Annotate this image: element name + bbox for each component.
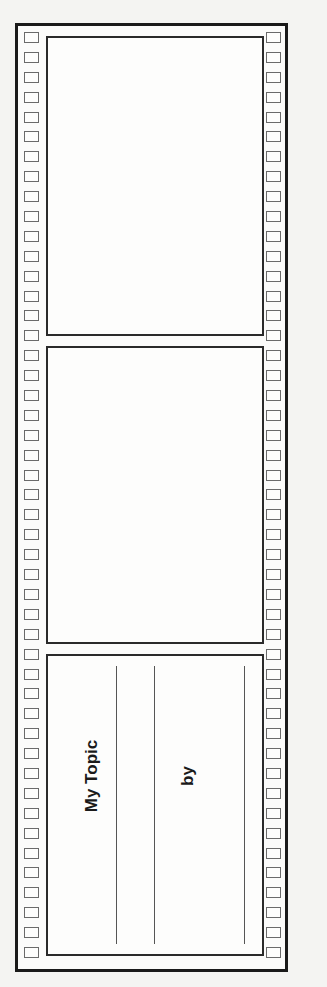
sprocket-hole: [266, 470, 281, 481]
sprocket-hole: [24, 927, 39, 938]
sprocket-hole: [266, 131, 281, 142]
sprocket-hole: [24, 509, 39, 520]
sprocket-hole: [24, 171, 39, 182]
sprocket-hole: [266, 410, 281, 421]
sprocket-hole: [266, 808, 281, 819]
filmstrip-border: My Topic by: [15, 23, 288, 972]
sprocket-hole: [266, 450, 281, 461]
sprocket-holes-left: [24, 32, 40, 967]
sprocket-hole: [266, 927, 281, 938]
sprocket-hole: [24, 92, 39, 103]
writing-line-3: [244, 666, 245, 944]
sprocket-holes-right: [266, 32, 282, 967]
sprocket-hole: [266, 569, 281, 580]
sprocket-hole: [24, 748, 39, 759]
sprocket-hole: [24, 470, 39, 481]
sprocket-hole: [24, 291, 39, 302]
sprocket-hole: [266, 112, 281, 123]
sprocket-hole: [24, 251, 39, 262]
sprocket-hole: [266, 688, 281, 699]
sprocket-hole: [24, 112, 39, 123]
sprocket-hole: [24, 489, 39, 500]
sprocket-hole: [266, 151, 281, 162]
sprocket-hole: [24, 569, 39, 580]
sprocket-hole: [24, 887, 39, 898]
sprocket-hole: [266, 32, 281, 43]
byline-label: by: [178, 756, 198, 796]
sprocket-hole: [24, 330, 39, 341]
sprocket-hole: [24, 549, 39, 560]
sprocket-hole: [266, 72, 281, 83]
sprocket-hole: [24, 310, 39, 321]
sprocket-hole: [266, 251, 281, 262]
sprocket-hole: [266, 529, 281, 540]
sprocket-hole: [266, 649, 281, 660]
sprocket-hole: [266, 728, 281, 739]
sprocket-hole: [24, 867, 39, 878]
sprocket-hole: [266, 549, 281, 560]
sprocket-hole: [266, 171, 281, 182]
sprocket-hole: [266, 669, 281, 680]
sprocket-hole: [24, 728, 39, 739]
sprocket-hole: [24, 788, 39, 799]
sprocket-hole: [24, 52, 39, 63]
sprocket-hole: [24, 211, 39, 222]
sprocket-hole: [24, 131, 39, 142]
sprocket-hole: [24, 191, 39, 202]
sprocket-hole: [266, 629, 281, 640]
sprocket-hole: [266, 828, 281, 839]
sprocket-hole: [266, 92, 281, 103]
title-frame: My Topic by: [46, 654, 264, 956]
sprocket-hole: [24, 410, 39, 421]
film-frame-1: [46, 36, 264, 336]
sprocket-hole: [24, 828, 39, 839]
sprocket-hole: [24, 450, 39, 461]
sprocket-hole: [24, 947, 39, 958]
sprocket-hole: [24, 390, 39, 401]
sprocket-hole: [24, 151, 39, 162]
sprocket-hole: [24, 32, 39, 43]
sprocket-hole: [266, 947, 281, 958]
sprocket-hole: [266, 708, 281, 719]
sprocket-hole: [266, 330, 281, 341]
sprocket-hole: [266, 430, 281, 441]
sprocket-hole: [266, 609, 281, 620]
sprocket-hole: [266, 211, 281, 222]
sprocket-hole: [24, 231, 39, 242]
sprocket-hole: [24, 609, 39, 620]
writing-line-2: [154, 666, 155, 944]
sprocket-hole: [266, 191, 281, 202]
sprocket-hole: [266, 589, 281, 600]
film-frame-2: [46, 346, 264, 644]
sprocket-hole: [24, 629, 39, 640]
sprocket-hole: [24, 271, 39, 282]
sprocket-hole: [266, 489, 281, 500]
topic-title: My Topic: [82, 736, 102, 816]
sprocket-hole: [24, 907, 39, 918]
writing-line-1: [116, 666, 117, 944]
sprocket-hole: [266, 768, 281, 779]
sprocket-hole: [266, 867, 281, 878]
sprocket-hole: [266, 390, 281, 401]
sprocket-hole: [266, 350, 281, 361]
sprocket-hole: [24, 370, 39, 381]
sprocket-hole: [266, 788, 281, 799]
sprocket-hole: [266, 52, 281, 63]
sprocket-hole: [266, 848, 281, 859]
sprocket-hole: [266, 748, 281, 759]
sprocket-hole: [266, 907, 281, 918]
sprocket-hole: [266, 509, 281, 520]
sprocket-hole: [266, 370, 281, 381]
sprocket-hole: [24, 529, 39, 540]
sprocket-hole: [24, 72, 39, 83]
sprocket-hole: [24, 708, 39, 719]
sprocket-hole: [266, 231, 281, 242]
sprocket-hole: [24, 669, 39, 680]
sprocket-hole: [24, 808, 39, 819]
sprocket-hole: [266, 310, 281, 321]
sprocket-hole: [266, 291, 281, 302]
sprocket-hole: [24, 688, 39, 699]
sprocket-hole: [24, 589, 39, 600]
sprocket-hole: [24, 848, 39, 859]
sprocket-hole: [24, 430, 39, 441]
